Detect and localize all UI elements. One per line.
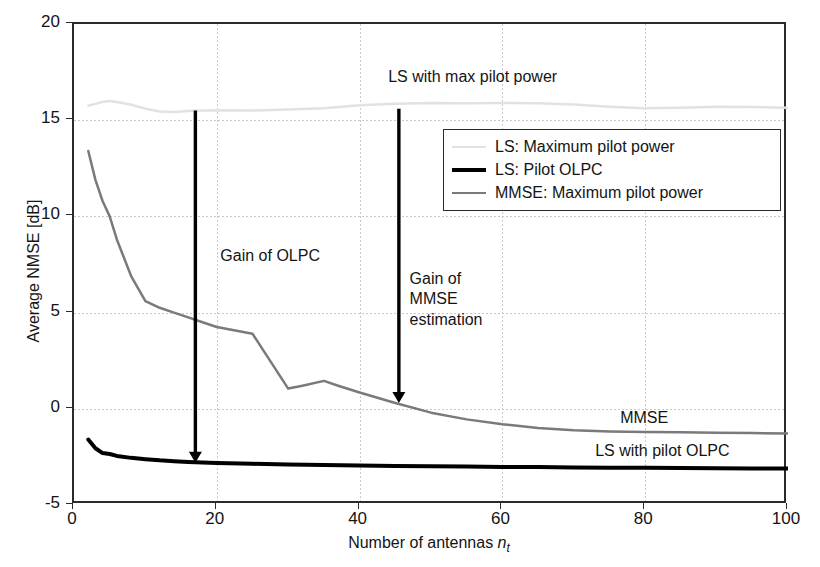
chart-figure: Average NMSE [dB] Number of antennas nt … xyxy=(0,0,820,567)
legend-label: LS: Pilot OLPC xyxy=(495,161,603,179)
y-tick-mark xyxy=(66,118,72,119)
y-tick-mark xyxy=(66,503,72,504)
legend-swatch xyxy=(452,146,486,148)
x-tick-label: 20 xyxy=(205,509,224,529)
curves-layer xyxy=(74,24,788,505)
x-tick-label: 0 xyxy=(67,509,76,529)
y-tick-label: 15 xyxy=(0,108,60,128)
y-tick-label: 20 xyxy=(0,12,60,32)
legend-swatch xyxy=(452,168,486,172)
y-tick-mark xyxy=(66,407,72,408)
plot-area: LS with max pilot powerGain of OLPCGain … xyxy=(72,22,786,503)
y-tick-mark xyxy=(66,311,72,312)
x-tick-label: 100 xyxy=(772,509,800,529)
gain-of-mmse-estimation-label: Gain of MMSE estimation xyxy=(410,269,483,330)
gain-of-mmse-arrow-head xyxy=(392,392,405,403)
x-axis-title-text: Number of antennas xyxy=(348,534,497,551)
y-axis-title: Average NMSE [dB] xyxy=(25,141,43,401)
x-axis-title: Number of antennas nt xyxy=(72,534,786,555)
x-tick-label: 40 xyxy=(348,509,367,529)
legend-label: LS: Maximum pilot power xyxy=(495,138,675,156)
ls-with-pilot-olpc-label: LS with pilot OLPC xyxy=(595,441,729,461)
y-tick-label: 10 xyxy=(0,204,60,224)
legend-swatch xyxy=(452,192,486,194)
legend-entry: LS: Pilot OLPC xyxy=(452,158,772,181)
y-tick-mark xyxy=(66,22,72,23)
x-axis-title-subscript: t xyxy=(506,541,509,555)
x-tick-label: 80 xyxy=(634,509,653,529)
y-tick-label: 5 xyxy=(0,301,60,321)
legend-entry: MMSE: Maximum pilot power xyxy=(452,181,772,204)
legend: LS: Maximum pilot powerLS: Pilot OLPCMMS… xyxy=(443,129,781,211)
legend-label: MMSE: Maximum pilot power xyxy=(495,184,703,202)
x-tick-label: 60 xyxy=(491,509,510,529)
ls-max-pilot-power-label: LS with max pilot power xyxy=(388,67,557,87)
y-tick-label: -5 xyxy=(0,493,60,513)
series-line xyxy=(88,101,788,112)
legend-entry: LS: Maximum pilot power xyxy=(452,135,772,158)
y-tick-mark xyxy=(66,214,72,215)
mmse-curve-label: MMSE xyxy=(620,408,668,428)
y-tick-label: 0 xyxy=(0,397,60,417)
gain-of-olpc-label: Gain of OLPC xyxy=(220,246,320,266)
